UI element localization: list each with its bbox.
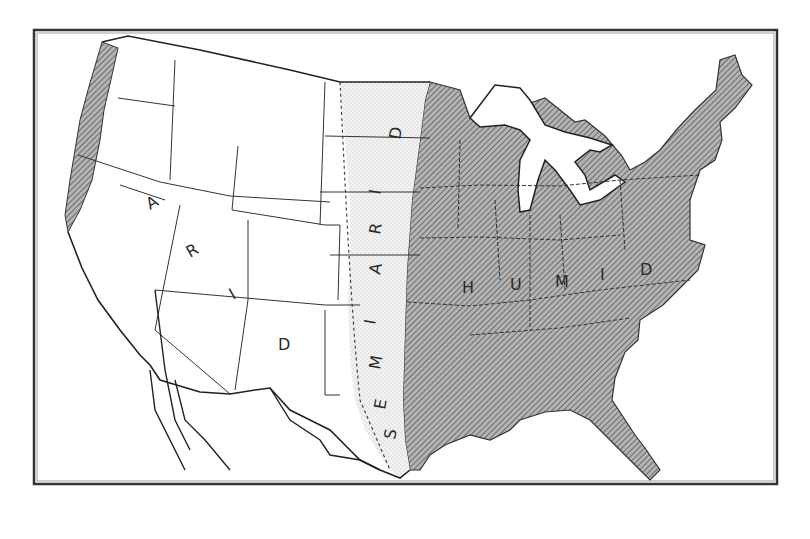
svg-text:I: I	[600, 265, 605, 284]
svg-text:M: M	[555, 272, 569, 291]
svg-text:D: D	[640, 260, 652, 279]
svg-text:U: U	[510, 275, 522, 294]
climate-map: A R I D S E M I A R I D H U M I D	[0, 0, 810, 539]
svg-text:H: H	[462, 278, 474, 297]
svg-text:D: D	[278, 335, 290, 354]
